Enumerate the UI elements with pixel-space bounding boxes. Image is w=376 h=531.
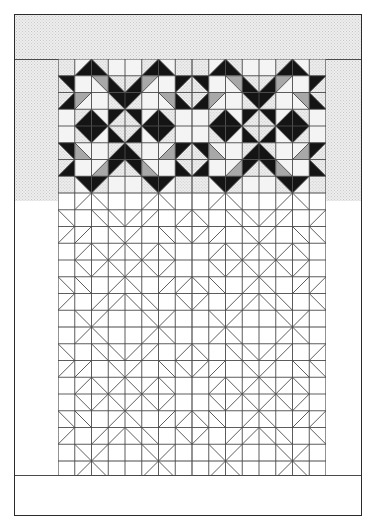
drawing-frame — [14, 14, 362, 516]
quilt-patch — [175, 176, 192, 193]
quilt-patch — [242, 176, 259, 193]
quilt-patch — [125, 193, 142, 210]
quilt-patch — [175, 310, 192, 327]
quilt-patch — [192, 109, 209, 126]
quilt-patch — [125, 444, 142, 461]
quilt-patch — [125, 176, 142, 193]
quilt-patch — [209, 428, 226, 445]
quilt-patch — [108, 310, 125, 327]
quilt-patch — [293, 210, 310, 227]
quilt-patch — [175, 260, 192, 277]
quilt-patch — [92, 143, 109, 160]
quilt-patch — [226, 143, 243, 160]
quilt-patch — [75, 160, 92, 177]
quilt-patch — [58, 243, 75, 260]
quilt-patch — [108, 461, 125, 475]
quilt-patch — [192, 394, 209, 411]
quilt-patch — [226, 361, 243, 378]
quilt-patch — [226, 411, 243, 428]
quilt-patch — [309, 59, 326, 76]
quilt-patch — [309, 310, 326, 327]
quilt-patch — [192, 327, 209, 344]
quilt-patch — [259, 310, 276, 327]
quilt-patch — [293, 76, 310, 93]
quilt-patch — [309, 243, 326, 260]
quilt-patch — [108, 59, 125, 76]
quilt-patch — [92, 93, 109, 110]
quilt-patch — [309, 193, 326, 210]
quilt-patch — [159, 344, 176, 361]
quilt-patch — [58, 109, 75, 126]
quilt-patch — [209, 294, 226, 311]
quilt-patch — [276, 143, 293, 160]
quilt-patch — [58, 377, 75, 394]
quilt-patch — [276, 227, 293, 244]
quilt-patch — [108, 327, 125, 344]
quilt-patch — [259, 461, 276, 475]
quilt-patch — [276, 93, 293, 110]
quilt-patch — [259, 327, 276, 344]
quilt-patch — [209, 344, 226, 361]
quilt-patch — [192, 59, 209, 76]
quilt-patch — [75, 210, 92, 227]
quilt-patch — [142, 411, 159, 428]
quilt-patch — [259, 176, 276, 193]
quilt-patch — [293, 294, 310, 311]
quilt-patch — [242, 444, 259, 461]
quilt-patch — [125, 461, 142, 475]
quilt-patch — [58, 176, 75, 193]
quilt-patch — [58, 444, 75, 461]
quilt-patch — [226, 227, 243, 244]
quilt-patch — [75, 294, 92, 311]
quilt-patch — [175, 461, 192, 475]
quilt-patch — [242, 310, 259, 327]
quilt-patch — [242, 193, 259, 210]
quilt-patch — [159, 210, 176, 227]
quilt-patch — [309, 109, 326, 126]
quilt-patch — [309, 377, 326, 394]
quilt-pattern-area — [58, 59, 326, 475]
quilt-patch — [108, 193, 125, 210]
quilt-patch — [309, 176, 326, 193]
quilt-patch — [192, 243, 209, 260]
quilt-patch — [175, 193, 192, 210]
quilt-patch — [259, 59, 276, 76]
quilt-patch — [276, 411, 293, 428]
quilt-pattern-svg — [58, 59, 326, 475]
quilt-patch — [175, 243, 192, 260]
quilt-patch — [242, 59, 259, 76]
quilt-patch — [309, 126, 326, 143]
quilt-patch — [58, 327, 75, 344]
quilt-patch — [175, 444, 192, 461]
quilt-patch — [309, 260, 326, 277]
quilt-patch — [108, 444, 125, 461]
quilt-patch — [309, 327, 326, 344]
quilt-patch — [259, 444, 276, 461]
quilt-patch — [58, 260, 75, 277]
quilt-patch — [293, 160, 310, 177]
quilt-patch — [125, 59, 142, 76]
quilt-patch — [75, 344, 92, 361]
quilt-patch — [226, 93, 243, 110]
quilt-patch — [142, 93, 159, 110]
figure-page — [0, 0, 376, 531]
quilt-patch — [92, 361, 109, 378]
quilt-patch — [58, 310, 75, 327]
quilt-patch — [192, 377, 209, 394]
quilt-patch — [209, 160, 226, 177]
quilt-patch — [125, 327, 142, 344]
quilt-patch — [75, 428, 92, 445]
quilt-patch — [242, 461, 259, 475]
quilt-patch — [58, 461, 75, 475]
quilt-patch — [142, 361, 159, 378]
quilt-patch — [175, 327, 192, 344]
quilt-patch — [58, 394, 75, 411]
quilt-patch — [175, 394, 192, 411]
quilt-patch — [192, 461, 209, 475]
quilt-patch — [276, 361, 293, 378]
quilt-patch — [175, 59, 192, 76]
quilt-patch — [142, 277, 159, 294]
quilt-patch — [58, 59, 75, 76]
quilt-patch — [192, 260, 209, 277]
quilt-patch — [192, 176, 209, 193]
